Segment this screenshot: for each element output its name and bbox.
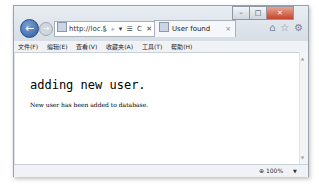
browser-window: – □ ✕ ← → http://loc... § ⌕ ▾ ☰ C ✕ User… xyxy=(13,5,309,177)
menu-help[interactable]: 帮助(H) xyxy=(171,43,192,50)
address-tools-icons[interactable]: § ⌕ ▾ ☰ C ✕ xyxy=(103,22,153,36)
status-bar: ⊕ 100% ▼ xyxy=(14,164,308,177)
minimize-button[interactable]: – xyxy=(232,6,250,20)
back-button[interactable]: ← xyxy=(20,19,39,38)
back-arrow-icon: ← xyxy=(25,22,34,35)
tab-title: User found xyxy=(172,25,210,33)
title-bar: – □ ✕ ← → http://loc... § ⌕ ▾ ☰ C ✕ User… xyxy=(14,6,308,41)
tab-user-found[interactable]: User found × xyxy=(154,20,236,37)
menu-tools[interactable]: 工具(T) xyxy=(142,43,162,50)
close-icon: ✕ xyxy=(267,7,293,19)
maximize-icon: □ xyxy=(250,7,266,19)
forward-arrow-icon: → xyxy=(43,24,50,33)
scroll-down-icon[interactable]: ▼ xyxy=(301,155,304,160)
menu-favorites[interactable]: 收藏夹(A) xyxy=(106,43,133,50)
page-heading: adding new user. xyxy=(30,78,146,92)
menu-edit[interactable]: 编辑(E) xyxy=(47,43,67,50)
minimize-icon: – xyxy=(233,7,249,19)
address-bar[interactable]: http://loc... § ⌕ ▾ ☰ C ✕ xyxy=(54,21,156,37)
vertical-scrollbar[interactable]: ▲ ▼ xyxy=(299,52,308,164)
menu-view[interactable]: 查看(V) xyxy=(76,43,97,50)
tab-page-icon xyxy=(159,22,169,32)
close-window-button[interactable]: ✕ xyxy=(266,6,294,20)
scroll-up-icon[interactable]: ▲ xyxy=(301,56,304,61)
menu-file[interactable]: 文件(F) xyxy=(18,43,38,50)
page-icon xyxy=(57,22,67,32)
maximize-button[interactable]: □ xyxy=(249,6,267,20)
zoom-level[interactable]: ⊕ 100% xyxy=(259,165,283,177)
zoom-dropdown-icon[interactable]: ▼ xyxy=(293,165,297,177)
tab-close-icon[interactable]: × xyxy=(225,21,231,37)
page-content: adding new user. New user has been added… xyxy=(15,52,299,165)
home-favorites-tools-icons[interactable]: ⌂☆⚙ xyxy=(269,22,308,33)
address-url: http://loc... xyxy=(69,25,107,33)
status-message: New user has been added to database. xyxy=(30,101,148,108)
forward-button[interactable]: → xyxy=(39,22,53,36)
menu-bar: 文件(F) 编辑(E) 查看(V) 收藏夹(A) 工具(T) 帮助(H) xyxy=(14,41,308,52)
